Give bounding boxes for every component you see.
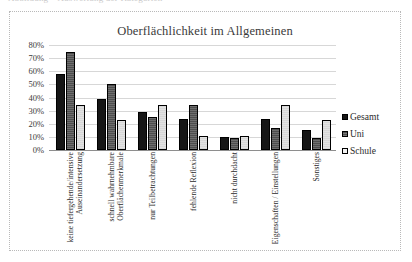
bar-gesamt bbox=[261, 119, 270, 151]
bar-gesamt bbox=[302, 130, 311, 150]
y-axis-tick-30: 30% bbox=[28, 106, 44, 116]
bar-group bbox=[97, 45, 126, 150]
bar-schule bbox=[158, 105, 167, 150]
legend-item-schule[interactable]: Schule bbox=[342, 142, 404, 159]
bar-uni bbox=[148, 117, 157, 150]
bar-schule bbox=[240, 136, 249, 150]
chart-title: Oberflächlichkeit im Allgemeinen bbox=[10, 24, 400, 39]
bar-group bbox=[261, 45, 290, 150]
bar-gesamt bbox=[138, 112, 147, 150]
bar-gesamt bbox=[179, 119, 188, 151]
bar-gesamt bbox=[56, 74, 65, 150]
y-axis-tick-70: 70% bbox=[28, 53, 44, 63]
x-axis-label: nur Teilbetrachtungen bbox=[149, 152, 158, 248]
x-axis-label: Eigenschaften / Einstellungen bbox=[272, 152, 281, 248]
bar-group bbox=[56, 45, 85, 150]
y-axis-tick-40: 40% bbox=[28, 93, 44, 103]
cropped-header-text-strip: Abbildung – Auswertung der Kategorien bbox=[0, 0, 412, 9]
bar-group bbox=[220, 45, 249, 150]
bar-gesamt bbox=[97, 99, 106, 150]
chart-container: Oberflächlichkeit im Allgemeinen 0%10%20… bbox=[9, 11, 401, 251]
bar-uni bbox=[271, 128, 280, 150]
y-axis-tick-labels: 0%10%20%30%40%50%60%70%80% bbox=[10, 45, 47, 150]
x-axis-label: fehlende Reflexion bbox=[190, 152, 199, 248]
bar-schule bbox=[76, 105, 85, 150]
legend-item-uni[interactable]: Uni bbox=[342, 125, 404, 142]
legend-swatch-hatched bbox=[342, 131, 348, 137]
x-axis-label: keine tiefergehende/intensive Auseinande… bbox=[67, 152, 84, 248]
y-axis-tick-60: 60% bbox=[28, 66, 44, 76]
bar-gesamt bbox=[220, 137, 229, 150]
legend-label: Gesamt bbox=[350, 112, 379, 122]
bar-uni bbox=[312, 138, 321, 150]
bar-group bbox=[302, 45, 331, 150]
x-axis-label: schnell wahrnehmbare Oberflächenmerkmale bbox=[108, 152, 125, 248]
plot-area bbox=[49, 45, 336, 150]
bar-uni bbox=[189, 105, 198, 150]
bar-schule bbox=[199, 136, 208, 150]
legend-label: Schule bbox=[350, 146, 376, 156]
bar-group bbox=[179, 45, 208, 150]
bar-schule bbox=[322, 120, 331, 150]
y-axis-tick-80: 80% bbox=[28, 40, 44, 50]
y-axis-tick-10: 10% bbox=[28, 132, 44, 142]
gridline-0 bbox=[49, 150, 336, 151]
bar-uni bbox=[66, 52, 75, 150]
cropped-header-text: Abbildung – Auswertung der Kategorien bbox=[8, 0, 162, 3]
bar-uni bbox=[230, 138, 239, 150]
y-axis-tick-0: 0% bbox=[33, 145, 44, 155]
bar-group bbox=[138, 45, 167, 150]
bar-schule bbox=[117, 120, 126, 150]
legend-label: Uni bbox=[350, 129, 364, 139]
bars-layer bbox=[49, 45, 336, 150]
x-axis-category-labels: keine tiefergehende/intensive Auseinande… bbox=[49, 152, 336, 252]
legend-swatch-filled bbox=[342, 114, 348, 120]
legend-swatch-open bbox=[342, 148, 348, 154]
y-axis-tick-20: 20% bbox=[28, 119, 44, 129]
chart-legend: GesamtUniSchule bbox=[342, 108, 404, 159]
x-axis-label: nicht durchdacht bbox=[231, 152, 240, 248]
bar-uni bbox=[107, 84, 116, 150]
x-axis-label: Sonstiges bbox=[313, 152, 322, 248]
bar-schule bbox=[281, 105, 290, 150]
y-axis-tick-50: 50% bbox=[28, 79, 44, 89]
legend-item-gesamt[interactable]: Gesamt bbox=[342, 108, 404, 125]
